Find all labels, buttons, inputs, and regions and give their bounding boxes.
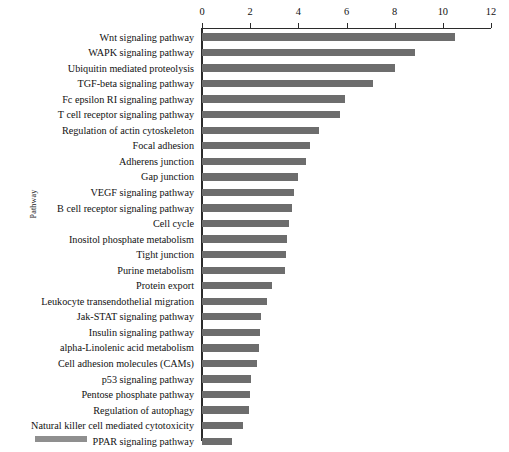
x-tick-label-0: 0 bbox=[199, 6, 204, 17]
bar-row bbox=[202, 372, 491, 388]
category-label: Cell cycle bbox=[0, 216, 198, 232]
bar-row bbox=[202, 123, 491, 139]
bar bbox=[202, 360, 257, 367]
x-tick-label-8: 8 bbox=[392, 6, 397, 17]
bar-row bbox=[202, 30, 491, 46]
bar bbox=[202, 406, 249, 413]
bar-row bbox=[202, 154, 491, 170]
bar bbox=[202, 438, 232, 445]
category-label: p53 signaling pathway bbox=[0, 372, 198, 388]
legend-swatch bbox=[35, 436, 87, 442]
bar bbox=[202, 64, 395, 71]
category-label: Wnt signaling pathway bbox=[0, 30, 198, 46]
category-label: B cell receptor signaling pathway bbox=[0, 201, 198, 217]
bar-row bbox=[202, 107, 491, 123]
bar-row bbox=[202, 76, 491, 92]
bar-row bbox=[202, 201, 491, 217]
x-tick-12 bbox=[491, 23, 492, 29]
bar bbox=[202, 220, 289, 227]
bar bbox=[202, 80, 373, 87]
bar bbox=[202, 158, 306, 165]
bar bbox=[202, 422, 243, 429]
category-label: Regulation of autophagy bbox=[0, 403, 198, 419]
bar bbox=[202, 344, 259, 351]
category-label: Leukocyte transendothelial migration bbox=[0, 294, 198, 310]
bar-row bbox=[202, 403, 491, 419]
bar bbox=[202, 173, 298, 180]
bar bbox=[202, 127, 319, 134]
category-label: Inositol phosphate metabolism bbox=[0, 232, 198, 248]
category-label: Tight junction bbox=[0, 247, 198, 263]
category-label: Insulin signaling pathway bbox=[0, 325, 198, 341]
x-tick-6 bbox=[347, 23, 348, 29]
bar-row bbox=[202, 340, 491, 356]
bar-row bbox=[202, 356, 491, 372]
bar bbox=[202, 391, 250, 398]
bar-row bbox=[202, 61, 491, 77]
bar-row bbox=[202, 138, 491, 154]
category-label: Jak-STAT signaling pathway bbox=[0, 309, 198, 325]
category-label: Natural killer cell mediated cytotoxicit… bbox=[0, 418, 198, 434]
bar bbox=[202, 49, 415, 56]
category-label-column: Wnt signaling pathwayWAPK signaling path… bbox=[0, 30, 198, 450]
category-label: alpha-Linolenic acid metabolism bbox=[0, 340, 198, 356]
bar bbox=[202, 298, 267, 305]
x-tick-8 bbox=[395, 23, 396, 29]
pathway-bar-chart: Pathway Wnt signaling pathwayWAPK signal… bbox=[0, 0, 509, 452]
x-tick-0 bbox=[202, 23, 203, 29]
bar-row bbox=[202, 232, 491, 248]
bar bbox=[202, 313, 261, 320]
bar bbox=[202, 251, 286, 258]
category-label: WAPK signaling pathway bbox=[0, 45, 198, 61]
category-label: Fc epsilon RI signaling pathway bbox=[0, 92, 198, 108]
bar-row bbox=[202, 434, 491, 450]
bar bbox=[202, 282, 272, 289]
bar bbox=[202, 95, 345, 102]
bar-row bbox=[202, 92, 491, 108]
category-label: Purine metabolism bbox=[0, 263, 198, 279]
bar-row bbox=[202, 247, 491, 263]
bar-row bbox=[202, 294, 491, 310]
x-tick-4 bbox=[298, 23, 299, 29]
category-label: TGF-beta signaling pathway bbox=[0, 76, 198, 92]
category-label: Ubiquitin mediated proteolysis bbox=[0, 61, 198, 77]
category-label: VEGF signaling pathway bbox=[0, 185, 198, 201]
bar-row bbox=[202, 387, 491, 403]
bar-row bbox=[202, 45, 491, 61]
category-label: Protein export bbox=[0, 278, 198, 294]
category-label: T cell receptor signaling pathway bbox=[0, 107, 198, 123]
legend bbox=[35, 436, 92, 442]
bar-row bbox=[202, 263, 491, 279]
bar-row bbox=[202, 185, 491, 201]
x-tick-label-6: 6 bbox=[344, 6, 349, 17]
bar-row bbox=[202, 216, 491, 232]
bar bbox=[202, 142, 310, 149]
category-label: PPAR signaling pathway bbox=[0, 434, 198, 450]
bar-row bbox=[202, 169, 491, 185]
bar-row bbox=[202, 278, 491, 294]
category-label: Pentose phosphate pathway bbox=[0, 387, 198, 403]
category-label: Focal adhesion bbox=[0, 138, 198, 154]
x-tick-2 bbox=[250, 23, 251, 29]
bar bbox=[202, 375, 251, 382]
plot-area: 024681012 bbox=[202, 30, 491, 450]
bar-series bbox=[202, 30, 491, 450]
bar bbox=[202, 267, 285, 274]
x-tick-label-10: 10 bbox=[438, 6, 448, 17]
bar bbox=[202, 235, 287, 242]
x-tick-label-12: 12 bbox=[486, 6, 496, 17]
bar bbox=[202, 329, 260, 336]
bar bbox=[202, 204, 292, 211]
category-label: Gap junction bbox=[0, 169, 198, 185]
bar-row bbox=[202, 325, 491, 341]
category-label: Regulation of actin cytoskeleton bbox=[0, 123, 198, 139]
bar-row bbox=[202, 309, 491, 325]
x-tick-label-4: 4 bbox=[296, 6, 301, 17]
bar bbox=[202, 111, 340, 118]
category-label: Adherens junction bbox=[0, 154, 198, 170]
x-tick-10 bbox=[443, 23, 444, 29]
bar-row bbox=[202, 418, 491, 434]
x-tick-label-2: 2 bbox=[248, 6, 253, 17]
category-label: Cell adhesion molecules (CAMs) bbox=[0, 356, 198, 372]
bar bbox=[202, 189, 294, 196]
